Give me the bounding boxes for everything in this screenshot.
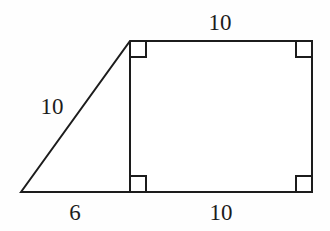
label-slant-side: 10 xyxy=(41,95,64,118)
label-bottom-left-segment: 6 xyxy=(69,201,81,224)
label-top-side: 10 xyxy=(209,11,232,34)
label-bottom-right-segment: 10 xyxy=(210,201,233,224)
trapezoid-outline xyxy=(21,41,312,192)
geometry-figure: 10 10 6 10 xyxy=(0,0,330,231)
